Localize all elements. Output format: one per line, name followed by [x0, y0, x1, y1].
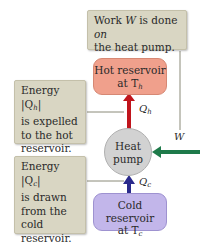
work-callout: Work W is done on the heat pump. [87, 10, 187, 50]
hot-reservoir: Hot reservoir at Th [93, 58, 167, 95]
cold-reservoir: Cold reservoir at Tc [93, 193, 167, 231]
cold-energy-callout: Energy |Qc| is drawn from the cold reser… [14, 156, 86, 234]
qh-label: Qh [139, 103, 152, 116]
hot-energy-callout: Energy |Qh| is expelled to the hot reser… [14, 80, 86, 144]
w-label: W [174, 131, 184, 142]
heat-pump: Heat pump [104, 128, 152, 176]
qc-label: Qc [139, 176, 151, 189]
